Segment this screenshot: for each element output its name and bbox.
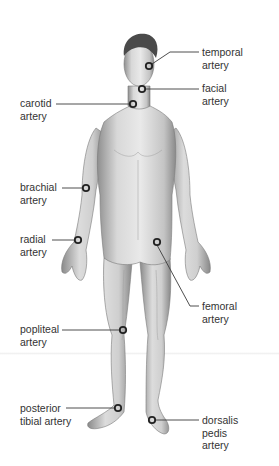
label-line: tibial artery (20, 415, 71, 428)
label-line: artery (20, 246, 47, 259)
label-line: radial (20, 233, 47, 246)
body-silhouette (62, 34, 211, 434)
label-line: artery (202, 439, 238, 452)
label-carotid-artery: carotid artery (20, 97, 52, 122)
label-line: artery (20, 336, 59, 349)
left-leg (140, 258, 171, 434)
label-femoral-artery: femoral artery (202, 300, 237, 325)
label-facial-artery: facial artery (202, 82, 229, 107)
label-line: femoral (202, 300, 237, 313)
label-line: artery (202, 313, 237, 326)
label-popliteal-artery: popliteal artery (20, 323, 59, 348)
label-line: brachial (20, 181, 57, 194)
label-line: artery (20, 110, 52, 123)
label-line: posterior (20, 402, 71, 415)
label-line: artery (202, 59, 243, 72)
label-line: artery (20, 194, 57, 207)
right-leg (88, 258, 132, 429)
label-line: artery (202, 95, 229, 108)
label-radial-artery: radial artery (20, 233, 47, 258)
label-temporal-artery: temporal artery (202, 46, 243, 71)
label-line: facial (202, 82, 229, 95)
label-line: dorsalis (202, 414, 238, 427)
label-brachial-artery: brachial artery (20, 181, 57, 206)
label-line: carotid (20, 97, 52, 110)
label-line: popliteal (20, 323, 59, 336)
leader-line-temporal (152, 52, 199, 64)
torso (97, 104, 175, 265)
label-line: temporal (202, 46, 243, 59)
label-line: pedis (202, 427, 238, 440)
label-posterior-tibial-artery: posterior tibial artery (20, 402, 71, 427)
label-dorsalis-pedis-artery: dorsalis pedis artery (202, 414, 238, 452)
